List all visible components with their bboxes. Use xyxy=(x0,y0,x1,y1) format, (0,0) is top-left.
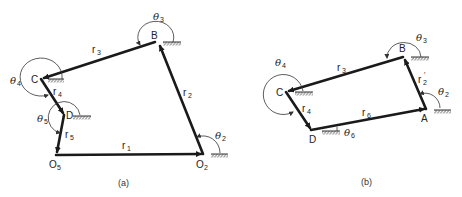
point-O2-label: O 2 xyxy=(196,159,208,171)
svg-text:3: 3 xyxy=(160,16,164,23)
ground-symbol-B xyxy=(163,42,181,46)
angle-theta6-label: θ 6 xyxy=(344,127,355,139)
angle-theta2-label-b: θ 2 xyxy=(438,86,449,98)
point-C-label-b: C xyxy=(276,87,283,98)
svg-text:6: 6 xyxy=(367,112,371,119)
angle-theta3-label-b: θ 3 xyxy=(416,32,427,44)
point-B-label-b: B xyxy=(399,43,406,54)
svg-text:θ: θ xyxy=(275,57,281,68)
panel-a-caption: (a) xyxy=(118,178,129,188)
point-O5-label: O 5 xyxy=(49,159,61,171)
panel-a: B C D O 5 O 2 r 1 r 2 r 3 r 4 r 5 xyxy=(10,11,228,188)
svg-text:θ: θ xyxy=(438,86,444,97)
svg-text:θ: θ xyxy=(344,127,350,138)
link-r1-label: r 1 xyxy=(122,140,131,152)
link-r6-label: r 6 xyxy=(362,107,371,119)
angle-theta2-label: θ 2 xyxy=(215,130,226,142)
link-r3-label: r 3 xyxy=(92,44,101,56)
link-r5-label: r 5 xyxy=(65,129,74,141)
link-r3-b xyxy=(289,57,403,91)
svg-text:3: 3 xyxy=(423,37,427,44)
svg-text:O: O xyxy=(49,159,57,170)
angle-theta3-label: θ 3 xyxy=(153,11,164,23)
point-C-label: C xyxy=(31,74,38,85)
svg-text:2: 2 xyxy=(188,92,192,99)
link-r3 xyxy=(44,42,155,78)
link-r4-label-b: r 4 xyxy=(302,103,311,115)
link-r2-label: r 2 xyxy=(183,87,192,99)
svg-text:r: r xyxy=(183,87,187,98)
svg-text:θ: θ xyxy=(416,32,422,43)
svg-text:4: 4 xyxy=(58,91,62,98)
svg-text:r: r xyxy=(65,129,69,140)
panel-b: B C D A r 2 ′ r 3 r 4 r 6 θ 3 θ 4 θ xyxy=(263,32,451,187)
svg-text:θ: θ xyxy=(10,75,16,86)
svg-text:3: 3 xyxy=(342,67,346,74)
svg-text:6: 6 xyxy=(351,132,355,139)
point-D-label-b: D xyxy=(309,134,316,145)
svg-text:5: 5 xyxy=(44,118,48,125)
link-r4-label: r 4 xyxy=(53,86,62,98)
svg-text:r: r xyxy=(418,74,422,85)
ground-symbol-C-b xyxy=(295,92,313,96)
svg-text:4: 4 xyxy=(282,62,286,69)
ground-symbol-C xyxy=(48,79,64,83)
angle-theta4-label: θ 4 xyxy=(10,75,21,87)
svg-text:3: 3 xyxy=(97,49,101,56)
svg-text:2: 2 xyxy=(222,135,226,142)
svg-text:θ: θ xyxy=(215,130,221,141)
svg-text:r: r xyxy=(122,140,126,151)
link-r2 xyxy=(160,46,203,154)
svg-text:O: O xyxy=(196,159,204,170)
svg-text:θ: θ xyxy=(37,113,43,124)
point-D-label: D xyxy=(66,110,73,121)
ground-symbol-B-b xyxy=(411,57,429,61)
svg-text:2: 2 xyxy=(423,79,427,86)
svg-text:5: 5 xyxy=(70,134,74,141)
panel-b-caption: (b) xyxy=(361,177,372,187)
ground-symbol-O2 xyxy=(211,154,228,158)
angle-theta4-label-b: θ 4 xyxy=(275,57,286,69)
svg-text:θ: θ xyxy=(153,11,159,22)
vector-loop-diagram: B C D O 5 O 2 r 1 r 2 r 3 r 4 r 5 xyxy=(0,0,462,197)
ground-symbol-D xyxy=(73,116,91,120)
svg-text:2: 2 xyxy=(204,164,208,171)
svg-text:r: r xyxy=(92,44,96,55)
svg-text:r: r xyxy=(362,107,366,118)
link-r3-label-b: r 3 xyxy=(337,62,346,74)
svg-text:5: 5 xyxy=(57,164,61,171)
point-B-label: B xyxy=(151,30,158,41)
angle-theta5-label: θ 5 xyxy=(37,113,48,125)
svg-text:4: 4 xyxy=(307,108,311,115)
svg-text:1: 1 xyxy=(127,145,131,152)
ground-symbol-A xyxy=(434,110,451,114)
svg-text:r: r xyxy=(53,86,57,97)
svg-text:2: 2 xyxy=(445,91,449,98)
link-r2p-label: r 2 ′ xyxy=(418,71,427,86)
svg-text:r: r xyxy=(302,103,306,114)
svg-text:′: ′ xyxy=(424,71,426,78)
svg-text:4: 4 xyxy=(17,80,21,87)
link-r5 xyxy=(57,115,64,152)
svg-text:r: r xyxy=(337,62,341,73)
point-A-label: A xyxy=(421,113,428,124)
link-r1 xyxy=(56,154,201,155)
